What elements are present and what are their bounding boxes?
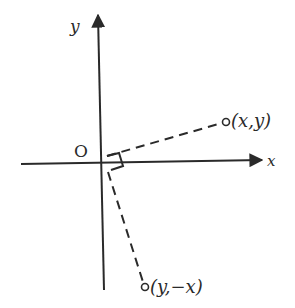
point-xy-label: (x,y) (231, 110, 271, 131)
x-axis-label: x (267, 152, 276, 170)
y-axis-label: y (69, 16, 80, 36)
origin-label: O (74, 141, 88, 161)
y-axis (98, 15, 104, 290)
x-axis (21, 160, 262, 164)
coordinate-diagram: y x O (x,y) (y,−x) (0, 0, 295, 308)
segment-to-point-y-negx (108, 172, 143, 282)
point-y-negx-marker (142, 284, 149, 291)
segment-to-point-xy (107, 123, 222, 156)
point-y-negx-label: (y,−x) (150, 276, 203, 297)
point-xy-marker (223, 119, 230, 126)
